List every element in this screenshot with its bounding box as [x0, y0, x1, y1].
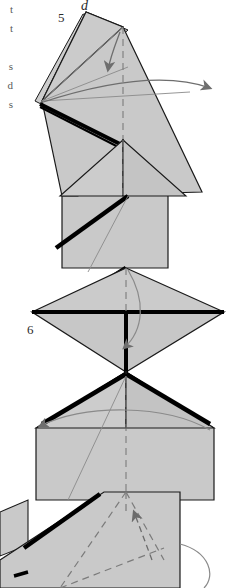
step-number-5: 5	[58, 10, 65, 26]
point-label-d: d	[81, 0, 88, 14]
origami-diagram-page: t t s d s	[0, 0, 230, 588]
diagram-canvas	[0, 0, 230, 588]
bottom-edge-curve	[180, 544, 210, 588]
figure-6	[32, 268, 224, 378]
figure-6-result	[36, 372, 214, 505]
figure-partial-bottom	[0, 492, 210, 588]
step-number-6: 6	[27, 322, 34, 338]
figure-6-upper-half	[32, 268, 224, 312]
